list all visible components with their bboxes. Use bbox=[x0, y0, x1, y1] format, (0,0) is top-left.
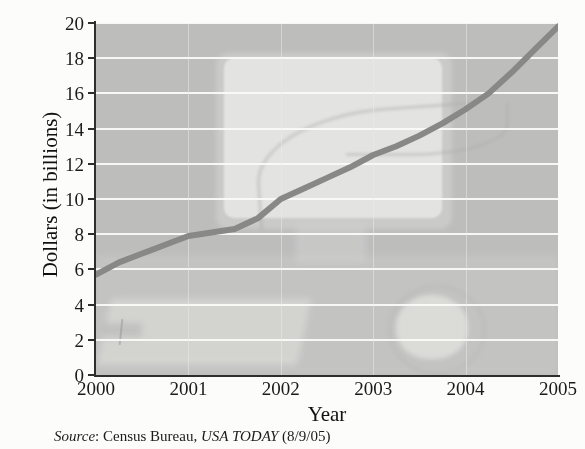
y-tick-label: 4 bbox=[0, 296, 84, 315]
source-date: (8/9/05) bbox=[278, 428, 330, 444]
y-tick-label: 8 bbox=[0, 225, 84, 244]
data-series-layer bbox=[96, 23, 558, 375]
y-tick-label: 2 bbox=[0, 331, 84, 350]
x-axis-line bbox=[94, 375, 560, 377]
y-tick-mark bbox=[88, 339, 95, 341]
y-tick-label: 18 bbox=[0, 49, 84, 68]
y-tick-mark bbox=[88, 304, 95, 306]
y-tick-mark bbox=[88, 163, 95, 165]
chart-figure: Dollars (in billions) 02468101214161820 … bbox=[0, 0, 585, 449]
x-axis-title: Year bbox=[96, 402, 558, 427]
y-tick-mark bbox=[88, 128, 95, 130]
y-tick-label: 20 bbox=[0, 14, 84, 33]
x-tick-label: 2003 bbox=[333, 379, 413, 400]
source-separator: : bbox=[95, 428, 103, 444]
y-tick-label: 12 bbox=[0, 155, 84, 174]
source-note: Source: Census Bureau, USA TODAY (8/9/05… bbox=[54, 428, 330, 445]
y-tick-mark bbox=[88, 268, 95, 270]
x-tick-label: 2001 bbox=[148, 379, 228, 400]
x-tick-label: 2000 bbox=[56, 379, 136, 400]
y-tick-mark bbox=[88, 92, 95, 94]
y-tick-mark bbox=[88, 22, 95, 24]
data-line-online-retail-sales bbox=[96, 27, 558, 275]
source-publication: USA TODAY bbox=[201, 428, 278, 444]
y-tick-label: 6 bbox=[0, 260, 84, 279]
source-agency: Census Bureau, bbox=[103, 428, 201, 444]
y-tick-label: 16 bbox=[0, 84, 84, 103]
y-tick-mark bbox=[88, 57, 95, 59]
y-tick-label: 14 bbox=[0, 120, 84, 139]
x-tick-label: 2005 bbox=[518, 379, 585, 400]
source-label: Source bbox=[54, 428, 95, 444]
y-tick-mark bbox=[88, 374, 95, 376]
plot-area bbox=[96, 23, 558, 375]
y-tick-mark bbox=[88, 198, 95, 200]
x-tick-label: 2004 bbox=[426, 379, 506, 400]
y-tick-label: 10 bbox=[0, 190, 84, 209]
x-tick-label: 2002 bbox=[241, 379, 321, 400]
y-tick-mark bbox=[88, 233, 95, 235]
